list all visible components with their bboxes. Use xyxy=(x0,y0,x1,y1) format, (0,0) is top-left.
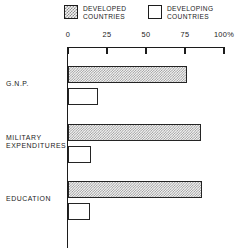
bar-chart: DEVELOPED COUNTRIES DEVELOPING COUNTRIES… xyxy=(0,0,242,250)
bar-developing xyxy=(68,146,91,163)
category-label-line1: EDUCATION xyxy=(6,195,64,204)
category-label: MILITARYEXPENDITURES xyxy=(6,134,64,151)
bar-developing xyxy=(68,203,90,220)
plot-area: G.N.P.MILITARYEXPENDITURESEDUCATION xyxy=(0,0,242,250)
category-label-line1: G.N.P. xyxy=(6,80,64,89)
category-label: EDUCATION xyxy=(6,195,64,204)
category-label-line1: MILITARY xyxy=(6,134,64,143)
bar-developed xyxy=(68,181,202,198)
category-label: G.N.P. xyxy=(6,80,64,89)
category-label-line2: EXPENDITURES xyxy=(6,142,64,151)
bar-developing xyxy=(68,88,98,105)
bar-developed xyxy=(68,66,187,83)
bar-developed xyxy=(68,124,201,141)
